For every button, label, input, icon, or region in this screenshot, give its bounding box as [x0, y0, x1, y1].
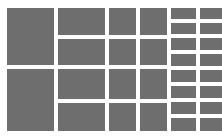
block-3-1[interactable] — [109, 8, 136, 35]
column-5 — [171, 8, 196, 131]
block-3-2[interactable] — [109, 39, 136, 65]
block-1-1[interactable] — [7, 8, 54, 65]
block-4-2[interactable] — [140, 39, 167, 65]
block-2-2[interactable] — [58, 39, 105, 65]
placeholder-grid — [0, 0, 222, 139]
block-6-6[interactable] — [200, 86, 222, 98]
block-4-4[interactable] — [140, 103, 167, 131]
block-3-3[interactable] — [109, 69, 136, 99]
block-3-4[interactable] — [109, 103, 136, 131]
column-4 — [140, 8, 167, 131]
block-5-5[interactable] — [171, 70, 196, 82]
block-6-5[interactable] — [200, 70, 222, 82]
block-6-1[interactable] — [200, 8, 222, 19]
block-6-3[interactable] — [200, 38, 222, 50]
block-5-3[interactable] — [171, 38, 196, 50]
column-3 — [109, 8, 136, 131]
block-5-8[interactable] — [171, 118, 196, 131]
column-2 — [58, 8, 105, 131]
block-5-2[interactable] — [171, 23, 196, 34]
block-2-3[interactable] — [58, 69, 105, 99]
block-5-1[interactable] — [171, 8, 196, 19]
column-1 — [7, 8, 54, 131]
column-6 — [200, 8, 222, 131]
block-6-8[interactable] — [200, 118, 222, 131]
grid-canvas — [0, 0, 222, 139]
block-2-4[interactable] — [58, 103, 105, 131]
block-5-6[interactable] — [171, 86, 196, 98]
block-2-1[interactable] — [58, 8, 105, 35]
block-1-2[interactable] — [7, 69, 54, 131]
block-4-3[interactable] — [140, 69, 167, 99]
block-6-2[interactable] — [200, 23, 222, 34]
block-4-1[interactable] — [140, 8, 167, 35]
block-6-4[interactable] — [200, 54, 222, 66]
block-5-4[interactable] — [171, 54, 196, 66]
block-5-7[interactable] — [171, 102, 196, 114]
block-6-7[interactable] — [200, 102, 222, 114]
